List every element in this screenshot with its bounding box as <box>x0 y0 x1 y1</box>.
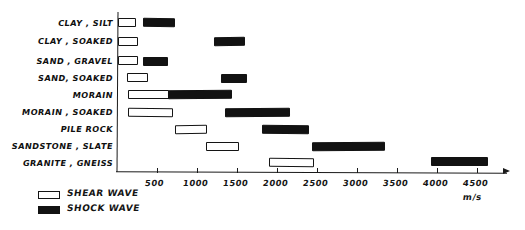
y-axis-line <box>117 12 119 172</box>
bar-shear-granite-gneiss <box>269 158 314 167</box>
x-axis-tick <box>277 168 278 173</box>
bar-shock-sand-soaked <box>221 74 247 83</box>
legend-swatch-shear-icon <box>38 191 60 199</box>
category-label-sandstone-slate: SANDSTONE , SLATE <box>7 141 114 151</box>
x-axis-tick-label: 4500 <box>462 178 489 188</box>
category-label-morain-soaked: MORAIN , SOAKED <box>9 107 114 117</box>
x-axis-line <box>116 171 507 174</box>
x-axis-tick <box>437 168 438 173</box>
category-label-sand-soaked: SAND, SOAKED <box>9 73 114 83</box>
legend-swatch-shock-icon <box>38 206 60 214</box>
bar-shock-sandstone-slate <box>312 142 385 152</box>
x-axis-tick-label: 500 <box>144 178 164 188</box>
bar-shock-sand-gravel <box>143 57 168 66</box>
bar-shock-granite-gneiss <box>431 157 488 166</box>
category-label-granite-gneiss: GRANITE , GNEISS <box>7 158 114 168</box>
category-label-sand-gravel: SAND , GRAVEL <box>9 56 114 66</box>
bar-shear-morain <box>128 90 169 99</box>
x-axis-tick <box>197 168 198 173</box>
category-label-clay-silt: CLAY , SILT <box>9 18 114 28</box>
bar-shock-pile-rock <box>262 125 309 134</box>
x-axis-unit-label: m/s <box>462 192 482 202</box>
bar-shock-clay-soaked <box>214 37 245 46</box>
x-axis-tick <box>477 168 478 173</box>
x-axis-tick <box>317 168 318 173</box>
x-axis-tick-label: 2500 <box>302 178 329 188</box>
bar-shear-pile-rock <box>175 125 207 134</box>
x-axis-tick-label: 3500 <box>382 178 409 188</box>
bar-shear-sandstone-slate <box>206 142 239 151</box>
bar-shear-clay-soaked <box>118 37 138 46</box>
bar-shear-clay-silt <box>118 18 136 27</box>
bar-shock-clay-silt <box>143 18 175 27</box>
x-axis-tick-label: 1000 <box>182 178 209 188</box>
x-axis-tick <box>357 168 358 173</box>
seismic-velocity-chart: CLAY , SILT CLAY , SOAKED SAND , GRAVEL … <box>0 0 525 230</box>
category-label-pile-rock: PILE ROCK <box>9 124 114 134</box>
category-label-morain: MORAIN <box>9 90 114 100</box>
x-axis-tick-label: 4000 <box>422 178 449 188</box>
legend-label-shock-wave: SHOCK WAVE <box>66 203 140 213</box>
legend-label-shear-wave: SHEAR WAVE <box>66 188 139 198</box>
bar-shock-morain-soaked <box>225 108 290 118</box>
bar-shear-morain-soaked <box>128 108 173 117</box>
x-axis-tick-label: 1500 <box>222 178 249 188</box>
x-axis-tick <box>397 168 398 173</box>
bar-shear-sand-gravel <box>118 56 138 65</box>
category-label-clay-soaked: CLAY , SOAKED <box>9 36 114 46</box>
x-axis-arrow-icon <box>503 168 510 174</box>
x-axis-tick <box>237 168 238 173</box>
x-axis-tick-label: 3000 <box>342 178 369 188</box>
bar-shear-sand-soaked <box>127 73 148 82</box>
bar-shock-morain <box>168 90 232 99</box>
x-axis-tick-label: 2000 <box>262 178 289 188</box>
x-axis-tick <box>157 168 158 173</box>
